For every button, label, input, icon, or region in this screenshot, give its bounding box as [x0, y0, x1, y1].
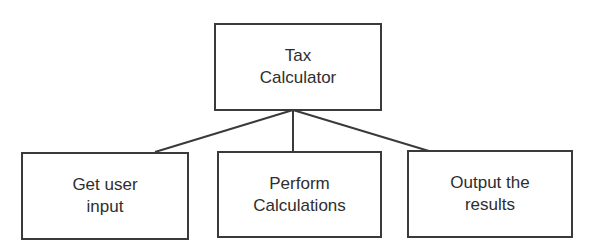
node-label-line2: Calculator — [260, 67, 337, 89]
node-label-line2: input — [72, 196, 137, 218]
node-label-line1: Tax — [260, 45, 337, 67]
node-get-user-input: Get user input — [21, 152, 189, 240]
node-label-line2: Calculations — [253, 195, 346, 217]
node-label-line1: Perform — [253, 173, 346, 195]
node-label-line1: Get user — [72, 174, 137, 196]
node-output-the-results: Output the results — [407, 150, 573, 238]
node-label-line1: Output the — [450, 172, 529, 194]
node-perform-calculations: Perform Calculations — [217, 151, 382, 238]
node-label-line2: results — [450, 194, 529, 216]
connector-root-to-output-results — [293, 110, 429, 151]
connector-root-to-get-user-input — [155, 110, 293, 152]
node-tax-calculator: Tax Calculator — [214, 23, 382, 111]
